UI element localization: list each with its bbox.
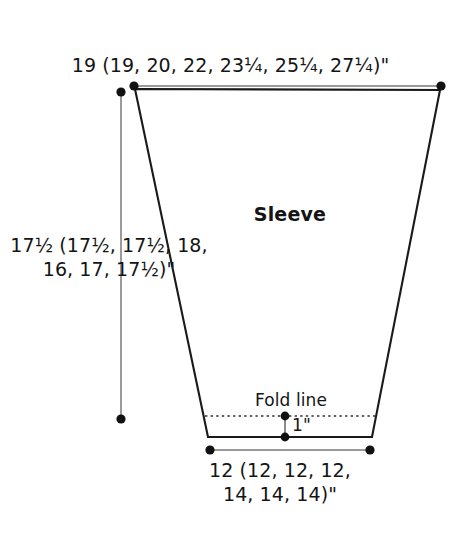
fold-depth-dot-top <box>281 412 290 421</box>
fold-line-label: Fold line <box>206 389 376 412</box>
bottom-measurement-line-2: 14, 14, 14)" <box>172 482 388 506</box>
top-dimension-dot-right <box>436 81 445 90</box>
side-dimension-dot-bottom <box>116 414 125 423</box>
side-measurement-label: 17½ (17½, 17½, 18, 16, 17, 17½)" <box>0 233 218 281</box>
bottom-dimension-dot-right <box>365 445 374 454</box>
side-dimension-dot-top <box>116 87 125 96</box>
bottom-dimension-dot-left <box>205 445 214 454</box>
side-measurement-line-2: 16, 17, 17½)" <box>0 257 218 281</box>
top-dimension-dot-left <box>129 81 138 90</box>
top-measurement-label: 19 (19, 20, 22, 23¼, 25¼, 27¼)" <box>0 54 461 77</box>
fold-depth-dot-bottom <box>281 433 290 442</box>
bottom-dimension-line <box>205 445 374 454</box>
bottom-measurement-label: 12 (12, 12, 12, 14, 14, 14)" <box>172 458 388 506</box>
fold-depth-label: 1" <box>292 414 311 437</box>
side-measurement-line-1: 17½ (17½, 17½, 18, <box>0 233 218 257</box>
bottom-measurement-line-1: 12 (12, 12, 12, <box>172 458 388 482</box>
piece-title: Sleeve <box>214 203 366 226</box>
